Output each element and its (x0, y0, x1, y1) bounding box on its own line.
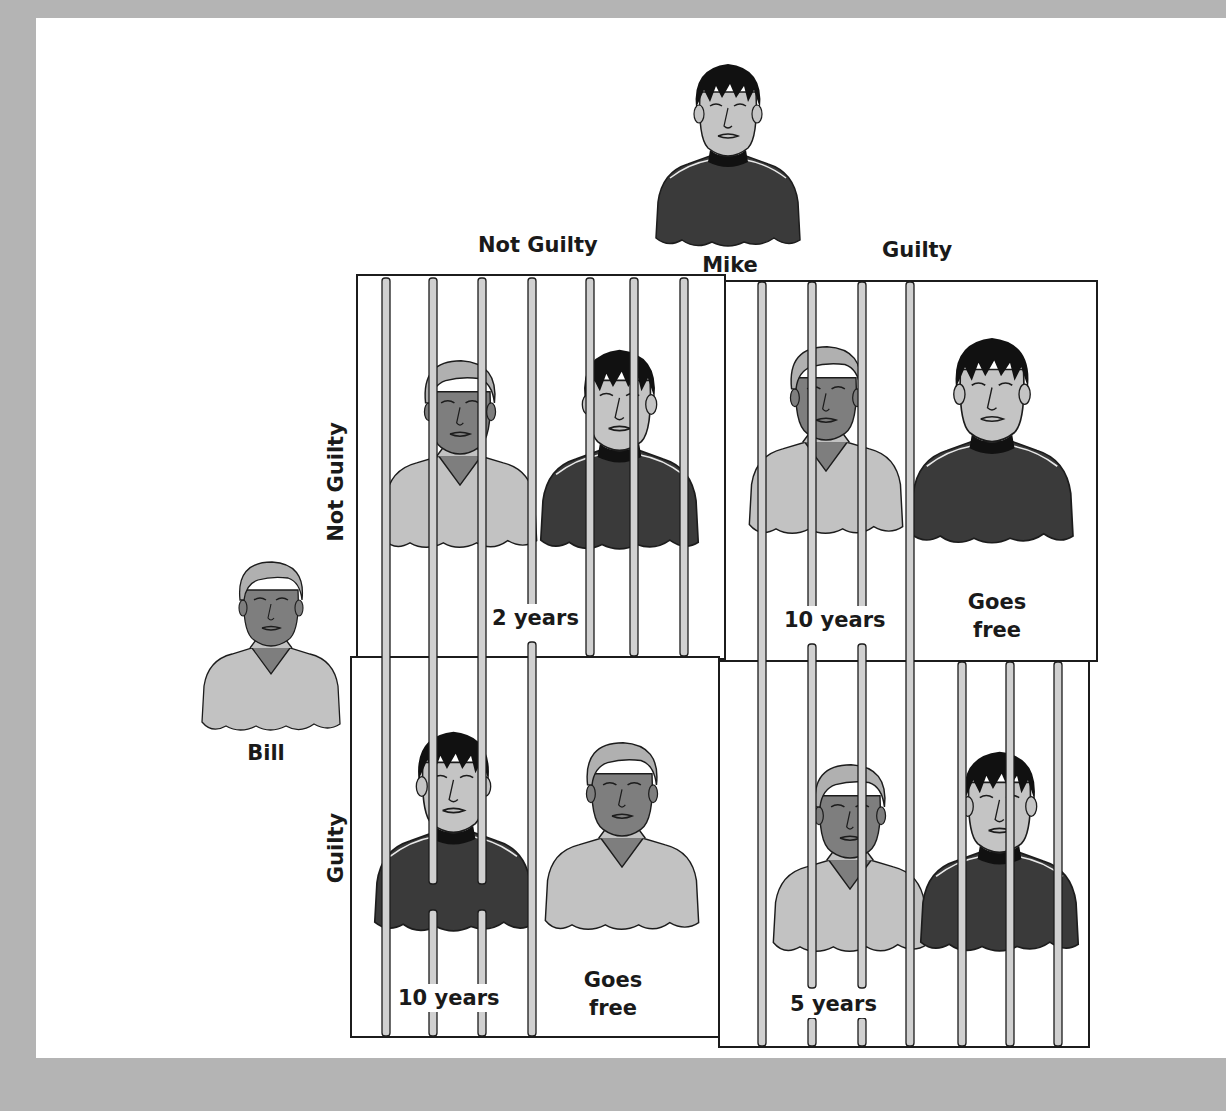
bill-portrait-icon (196, 556, 346, 736)
row-player-label: Bill (236, 742, 296, 765)
mike-figure-cell4 (912, 738, 1087, 958)
outcome-cell4: 5 years (786, 990, 881, 1018)
column-header-not-guilty: Not Guilty (478, 234, 598, 257)
bill-figure-cell2 (736, 340, 916, 540)
outcome-cell1: 2 years (488, 604, 583, 632)
outcome-cell2-mike: Goesfree (948, 588, 1046, 645)
row-header-guilty: Guilty (324, 808, 348, 888)
row-header-not-guilty: Not Guilty (324, 422, 348, 542)
outcome-cell2-bill: 10 years (780, 606, 890, 634)
outcome-cell3-mike: 10 years (394, 984, 504, 1012)
payoff-grid: 2 years 10 years Goesfree 10 years Goesf… (350, 270, 1098, 1048)
column-header-guilty: Guilty (882, 239, 952, 262)
mike-figure-cell3 (366, 718, 541, 938)
mike-figure-cell2 (902, 322, 1082, 552)
bill-figure-cell1 (370, 354, 550, 554)
outcome-cell3-bill: Goesfree (564, 966, 662, 1023)
bill-figure-cell3 (532, 736, 712, 936)
bottom-frame-band (0, 1058, 1212, 1111)
mike-figure-cell1 (532, 336, 707, 556)
mike-portrait-icon (648, 52, 808, 252)
